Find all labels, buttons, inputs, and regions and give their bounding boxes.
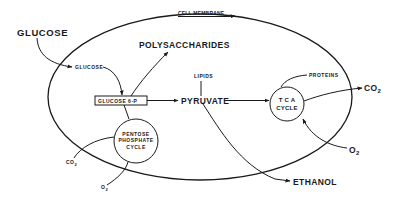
svg-text:PHOSPHATE: PHOSPHATE — [118, 137, 153, 143]
proteins-label: PROTEINS — [309, 72, 339, 78]
ethanol-label: ETHANOL — [293, 177, 337, 187]
glucose-inner-label: GLUCOSE — [75, 64, 103, 70]
tca-cycle-circle: T C A CYCLE — [270, 87, 304, 121]
co2-right-label: CO2 — [364, 83, 382, 94]
glucose-transport-arrow — [37, 38, 72, 67]
svg-text:T C A: T C A — [279, 97, 296, 103]
g6p-to-pentose-line — [124, 105, 129, 119]
co2-left-label: CO2 — [66, 159, 78, 167]
pentose-phosphate-cycle-circle: PENTOSE PHOSPHATE CYCLE — [114, 119, 158, 163]
o2-to-pentose-line — [107, 162, 128, 185]
lipids-label: LIPIDS — [194, 73, 213, 79]
svg-text:PENTOSE: PENTOSE — [122, 131, 149, 137]
tca-to-co2-arrow — [304, 88, 362, 101]
svg-text:GLUCOSE 6-P: GLUCOSE 6-P — [98, 98, 138, 104]
svg-text:CYCLE: CYCLE — [276, 105, 297, 111]
svg-text:CYCLE: CYCLE — [126, 144, 146, 150]
polysaccharides-label: POLYSACCHARIDES — [139, 40, 230, 50]
svg-text:CELL MEMBRANE: CELL MEMBRANE — [178, 10, 225, 16]
g6p-to-polysaccharides-arrow — [131, 52, 168, 96]
glucose-to-g6p-arrow — [103, 67, 122, 95]
glucose-6-phosphate-box: GLUCOSE 6-P — [95, 96, 147, 105]
metabolism-diagram: CELL MEMBRANE GLUCOSE GLUCOSE POLYSACCHA… — [0, 0, 399, 201]
tca-to-proteins-line — [281, 75, 307, 87]
o2-right-label: O2 — [349, 145, 360, 156]
pyruvate-label: PYRUVATE — [181, 96, 229, 106]
glucose-outer-label: GLUCOSE — [17, 27, 68, 38]
